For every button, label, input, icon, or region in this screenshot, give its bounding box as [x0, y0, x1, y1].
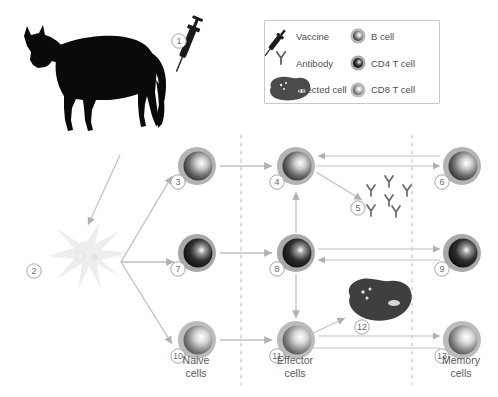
- column-label-effector: Effectorcells: [277, 354, 313, 379]
- marker-number: 8: [274, 264, 279, 274]
- arrow-b-effector-to-antibody: [316, 172, 362, 200]
- marker-number: 2: [31, 266, 36, 276]
- marker-number: 1: [176, 36, 181, 46]
- legend-label-cd8-t-cell: CD8 T cell: [371, 84, 415, 95]
- svg-text:cells: cells: [450, 367, 471, 379]
- column-label-naive: Naivecells: [183, 354, 210, 379]
- svg-text:Memory: Memory: [442, 354, 481, 366]
- marker-4: 4: [270, 175, 284, 189]
- horse-silhouette: [24, 25, 166, 131]
- diagram-canvas: 12345678910111213 NaivecellsEffectorcell…: [0, 0, 498, 397]
- legend-cd4-t-cell-icon: [351, 56, 366, 71]
- svg-text:Naive: Naive: [183, 354, 210, 366]
- marker-8: 8: [270, 262, 284, 276]
- marker-2: 2: [27, 264, 41, 278]
- legend-box: Vaccine Antibody Infected cell B cell CD…: [264, 20, 440, 104]
- marker-number: 7: [175, 264, 180, 274]
- legend-label-antibody: Antibody: [296, 58, 333, 69]
- infected-cell: [349, 279, 412, 321]
- legend-cd8-t-cell-icon: [351, 83, 366, 98]
- antibody-cluster: [367, 176, 411, 217]
- marker-5: 5: [351, 201, 365, 215]
- legend-label-infected-cell: Infected cell: [296, 84, 347, 95]
- svg-text:cells: cells: [284, 367, 305, 379]
- marker-9: 9: [435, 262, 449, 276]
- marker-1: 1: [172, 34, 186, 48]
- legend-label-cd4-t-cell: CD4 T cell: [371, 58, 415, 69]
- arrow-apc-to-cd8-naive: [121, 262, 172, 344]
- column-label-memory: Memorycells: [442, 354, 481, 379]
- marker-6: 6: [435, 175, 449, 189]
- arrow-apc-to-b-naive: [121, 176, 172, 262]
- marker-number: 12: [357, 322, 367, 332]
- marker-7: 7: [171, 262, 185, 276]
- marker-number: 10: [173, 351, 183, 361]
- svg-text:cells: cells: [185, 367, 206, 379]
- marker-number: 9: [439, 264, 444, 274]
- marker-number: 4: [274, 177, 279, 187]
- legend-label-vaccine: Vaccine: [296, 31, 329, 42]
- marker-number: 5: [355, 203, 360, 213]
- svg-text:Effector: Effector: [277, 354, 313, 366]
- legend-antibody-icon: [277, 52, 285, 64]
- arrow-vaccine-to-apc: [88, 155, 120, 225]
- marker-number: 3: [175, 177, 180, 187]
- dendritic-cell: [48, 222, 128, 290]
- marker-12: 12: [355, 320, 369, 334]
- marker-number: 6: [439, 177, 444, 187]
- marker-3: 3: [171, 175, 185, 189]
- legend-b-cell-icon: [351, 29, 366, 44]
- legend-label-b-cell: B cell: [371, 31, 394, 42]
